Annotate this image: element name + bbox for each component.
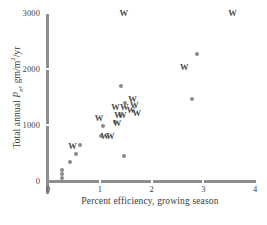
- data-point-dot: [68, 160, 72, 164]
- data-point-w: W: [113, 119, 122, 128]
- data-point-dot: [119, 84, 123, 88]
- x-tick-label: 1: [92, 185, 108, 194]
- data-point-dot: [122, 154, 126, 158]
- y-tick-label: 3000: [12, 9, 40, 18]
- data-point-w: W: [106, 132, 115, 141]
- y-axis-line: [46, 12, 49, 194]
- y-tick-mark: [44, 124, 50, 126]
- data-point-w: W: [68, 142, 77, 151]
- x-tick-label: 0: [40, 185, 56, 194]
- y-tick-label: 0: [12, 177, 40, 186]
- y-axis-title: Total annual Pn, gm/m2/yr: [7, 18, 26, 178]
- plot-area: 0100020003000 01234 WWWWWWWWWWWWWWWW: [48, 13, 255, 181]
- data-point-w: W: [228, 9, 237, 18]
- data-point-dot: [195, 52, 199, 56]
- data-point-w: W: [132, 109, 141, 118]
- scatter-plot-figure: 0100020003000 01234 WWWWWWWWWWWWWWWW Tot…: [0, 0, 267, 225]
- data-point-dot: [190, 97, 194, 101]
- data-point-w: W: [95, 114, 104, 123]
- data-point-dot: [74, 152, 78, 156]
- y-tick-mark: [44, 68, 50, 70]
- x-tick-label: 3: [195, 185, 211, 194]
- data-point-w: W: [120, 9, 129, 18]
- data-point-dot: [78, 143, 82, 147]
- x-axis-title: Percent efficiency, growing season: [40, 196, 260, 207]
- y-tick-mark: [44, 12, 50, 14]
- data-point-w: W: [118, 111, 127, 120]
- data-point-w: W: [180, 63, 189, 72]
- x-tick-label: 2: [144, 185, 160, 194]
- data-point-dot: [60, 168, 64, 172]
- data-point-dot: [101, 124, 105, 128]
- x-tick-label: 4: [247, 185, 263, 194]
